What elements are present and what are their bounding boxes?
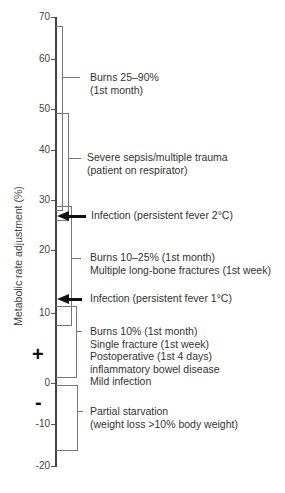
- tick-label-10: 10: [4, 308, 50, 318]
- label-burns-major: Burns 25–90% (1st month): [90, 71, 159, 96]
- tick-label-50: 50: [4, 104, 50, 114]
- tick-70: [51, 17, 55, 18]
- label-starvation: Partial starvation (weight loss >10% bod…: [90, 405, 238, 430]
- connector-burns-mid: [72, 258, 81, 259]
- range-bracket-burns-minor: [56, 306, 77, 378]
- tick-50: [51, 109, 55, 110]
- tick-label-30: 30: [4, 195, 50, 205]
- tick-60: [51, 59, 55, 60]
- tick-label-40: 40: [4, 145, 50, 155]
- tick-40: [51, 150, 55, 151]
- connector-burns-minor: [77, 331, 82, 332]
- tick-label-70: 70: [4, 12, 50, 22]
- label-burns-minor: Burns 10% (1st month) Single fracture (1…: [90, 325, 220, 388]
- plus-sign-marker: +: [32, 343, 44, 366]
- connector-starvation: [78, 411, 83, 412]
- tick-minus-20: [51, 466, 55, 467]
- label-fever-1c: Infection (persistent fever 1°C): [90, 292, 232, 305]
- range-bracket-sepsis: [56, 113, 69, 221]
- connector-sepsis: [69, 158, 81, 159]
- tick-label-minus-10: -10: [4, 419, 50, 429]
- tick-10: [51, 313, 55, 314]
- tick-20: [51, 250, 55, 251]
- label-fever-2c: Infection (persistent fever 2°C): [91, 209, 233, 222]
- tick-label-20: 20: [4, 245, 50, 255]
- range-bracket-starvation: [56, 385, 78, 451]
- tick-0: [51, 383, 55, 384]
- label-sepsis: Severe sepsis/multiple trauma (patient o…: [87, 151, 228, 176]
- tick-label-60: 60: [4, 54, 50, 64]
- arrow-fever-2c: [68, 215, 86, 218]
- tick-30: [51, 200, 55, 201]
- minus-sign-marker: -: [35, 391, 42, 414]
- tick-label-0: 0: [4, 378, 50, 388]
- label-burns-mid: Burns 10–25% (1st month) Multiple long-b…: [90, 251, 271, 276]
- connector-burns-major: [63, 77, 80, 78]
- arrow-fever-1c: [68, 298, 82, 301]
- tick-minus-10: [51, 424, 55, 425]
- tick-label-minus-20: -20: [4, 461, 50, 471]
